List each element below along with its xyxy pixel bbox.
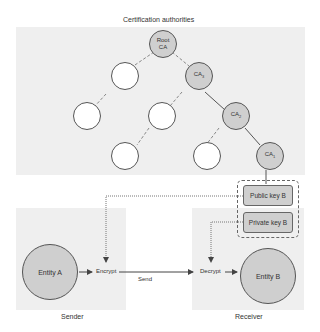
entity-a: Entity A — [22, 244, 78, 300]
ca2-node: CA2 — [222, 102, 250, 130]
root-ca-label: RootCA — [157, 37, 170, 51]
entity-b: Entity B — [240, 248, 296, 304]
ca2-label: CA2 — [231, 111, 242, 120]
root-ca-node: RootCA — [149, 30, 177, 58]
ca-node-empty-5 — [193, 142, 221, 170]
ca-node-empty-3 — [148, 102, 176, 130]
ca3-label: CA3 — [194, 71, 205, 80]
decrypt-label: Decrypt — [200, 268, 221, 274]
ca-node-empty-2 — [73, 102, 101, 130]
private-key-b: Private key B — [243, 212, 293, 233]
public-key-b: Public key B — [243, 185, 293, 206]
encrypt-label: Encrypt — [96, 268, 116, 274]
ca3-node: CA3 — [185, 62, 213, 90]
ca-node-empty-4 — [111, 142, 139, 170]
receiver-label: Receiver — [235, 313, 263, 320]
ca1-label: CA1 — [265, 151, 276, 160]
ca-node-empty-1 — [111, 62, 139, 90]
sender-label: Sender — [61, 313, 84, 320]
ca1-node: CA1 — [256, 142, 284, 170]
send-label: Send — [138, 276, 152, 282]
